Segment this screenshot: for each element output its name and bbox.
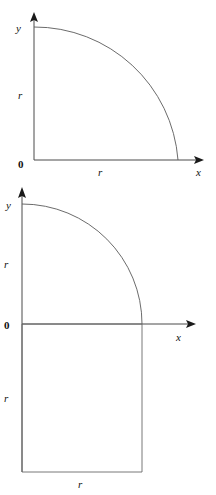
x-axis-label: x	[175, 331, 181, 343]
y-axis-lower-radius-label: r	[4, 392, 9, 404]
origin-label: 0	[18, 158, 24, 170]
quarter-circle-arc	[22, 204, 142, 324]
rectangle-base-radius-label: r	[78, 478, 83, 490]
figure-quarter-circle-with-rectangle: y r 0 r r x	[0, 180, 216, 495]
y-axis-label: y	[5, 199, 11, 211]
origin-label: 0	[4, 319, 10, 331]
x-axis-label: x	[195, 166, 201, 178]
x-axis-radius-label: r	[98, 166, 103, 178]
quarter-circle-arc	[34, 27, 178, 160]
rectangle-below-axis	[22, 324, 142, 472]
figure-quarter-circle-first-quadrant: y r 0 r x	[0, 0, 216, 180]
y-axis-radius-label: r	[18, 89, 23, 101]
y-axis-upper-radius-label: r	[4, 258, 9, 270]
y-axis-label: y	[15, 22, 21, 34]
diagram-page: y r 0 r x y r 0 r r x	[0, 0, 216, 495]
